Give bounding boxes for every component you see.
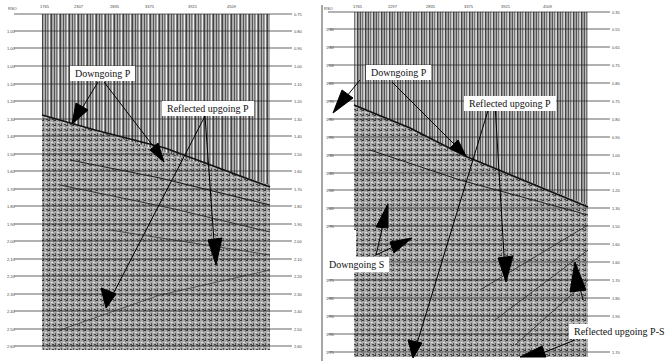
left-y-tick: 2.40 bbox=[7, 309, 15, 314]
right-panel-right-tick: 1.80 bbox=[612, 296, 620, 301]
right-y-tick: 1.20 bbox=[294, 99, 302, 104]
right-y-tick: 2.10 bbox=[294, 257, 302, 262]
left-y-tick: 1.70 bbox=[7, 187, 15, 192]
callout-reflected-upgoing-p: Reflected upgoing P bbox=[464, 96, 556, 111]
right-panel-top-tick: 4509 bbox=[543, 4, 552, 9]
callout-downgoing-p: Downgoing P bbox=[70, 66, 135, 81]
right-panel-right-tick: 0.55 bbox=[612, 27, 620, 32]
right-panel-top-tick: 1765 bbox=[353, 4, 362, 9]
right-panel-top-tick: 3375 bbox=[464, 4, 473, 9]
left-top-tick: 4509 bbox=[227, 4, 236, 9]
right-seismic-plot bbox=[320, 0, 659, 361]
left-y-tick: 1.00 bbox=[7, 64, 15, 69]
right-panel-y-tick: 1.70 bbox=[326, 224, 334, 229]
left-y-tick: 1.00 bbox=[7, 29, 15, 34]
right-panel-right-tick: 1.10 bbox=[612, 171, 620, 176]
right-y-tick: 0.80 bbox=[294, 29, 302, 34]
right-y-tick: 1.00 bbox=[294, 64, 302, 69]
right-panel-right-tick: 1.60 bbox=[612, 260, 620, 265]
right-y-tick: 1.50 bbox=[294, 152, 302, 157]
left-y-tick: 1.50 bbox=[7, 152, 15, 157]
callout-reflected-upgoing-p-s: Reflected upgoing P-S bbox=[569, 324, 669, 339]
right-panel-top-tick: 3921 bbox=[501, 4, 510, 9]
right-panel-y-tick: 1.50 bbox=[326, 188, 334, 193]
left-y-tick: 1.90 bbox=[7, 222, 15, 227]
left-top-tick: 3921 bbox=[188, 4, 197, 9]
callout-downgoing-p: Downgoing P bbox=[366, 65, 431, 80]
left-y-tick: 1.10 bbox=[7, 82, 15, 87]
right-panel-top-tick: 2835 bbox=[426, 4, 435, 9]
right-panel-right-tick: 1.30 bbox=[612, 206, 620, 211]
left-axis-title: RSO bbox=[8, 6, 17, 11]
right-y-tick: 2.40 bbox=[294, 309, 302, 314]
left-y-tick: 1.30 bbox=[7, 117, 15, 122]
right-panel-right-tick: 1.50 bbox=[612, 224, 620, 229]
right-y-tick: 2.50 bbox=[294, 327, 302, 332]
left-y-tick: 2.60 bbox=[7, 344, 15, 349]
left-y-tick: 1.20 bbox=[7, 99, 15, 104]
left-y-tick: 1.80 bbox=[7, 204, 15, 209]
right-panel-y-tick: 1.80 bbox=[326, 296, 334, 301]
right-panel-y-tick: 1.80 bbox=[326, 117, 334, 122]
right-y-tick: 2.20 bbox=[294, 274, 302, 279]
left-top-tick: 2307 bbox=[74, 4, 83, 9]
right-panel-y-tick: 1.30 bbox=[326, 153, 334, 158]
right-panel-right-tick: 1.20 bbox=[612, 188, 620, 193]
right-y-tick: 1.60 bbox=[294, 169, 302, 174]
right-panel-y-tick: 1.40 bbox=[326, 171, 334, 176]
right-y-tick: 1.10 bbox=[294, 82, 302, 87]
right-panel-y-tick: 1.90 bbox=[326, 135, 334, 140]
right-seismic-panel: RSO 1765 2297 2835 3375 3921 4509 1.30 1… bbox=[320, 0, 659, 361]
right-y-tick: 1.40 bbox=[294, 134, 302, 139]
right-panel-y-tick: 1.50 bbox=[326, 63, 334, 68]
right-panel-right-tick: 1.70 bbox=[612, 278, 620, 283]
right-y-tick: 2.30 bbox=[294, 292, 302, 297]
left-y-tick: 2.00 bbox=[7, 239, 15, 244]
left-seismic-panel: RSO 1765 2307 2835 3375 3921 4509 1.00 1… bbox=[0, 0, 320, 361]
right-panel-y-tick: 1.90 bbox=[326, 314, 334, 319]
left-top-tick: 2835 bbox=[110, 4, 119, 9]
right-panel-top-tick: 2297 bbox=[388, 4, 397, 9]
right-panel-y-tick: 1.75 bbox=[326, 350, 334, 355]
right-y-tick: 1.70 bbox=[294, 187, 302, 192]
right-panel-right-tick: 0.75 bbox=[612, 63, 620, 68]
right-panel-axis-title: RSO bbox=[324, 6, 333, 11]
right-panel-y-tick: 1.90 bbox=[326, 332, 334, 337]
left-y-tick: 2.20 bbox=[7, 274, 15, 279]
left-top-tick: 3375 bbox=[145, 4, 154, 9]
right-panel-right-tick: 1.60 bbox=[612, 242, 620, 247]
callout-downgoing-s: Downgoing S bbox=[324, 257, 389, 272]
right-y-tick: 0.75 bbox=[294, 12, 302, 17]
right-panel-right-tick: 1.70 bbox=[612, 350, 620, 355]
right-y-tick: 0.90 bbox=[294, 46, 302, 51]
right-panel-right-tick: 0.80 bbox=[612, 81, 620, 86]
right-y-tick: 2.60 bbox=[294, 344, 302, 349]
right-y-tick: 1.30 bbox=[294, 117, 302, 122]
right-panel-right-tick: 0.90 bbox=[612, 135, 620, 140]
right-panel-right-tick: 0.80 bbox=[612, 117, 620, 122]
right-panel-right-tick: 1.90 bbox=[612, 314, 620, 319]
right-y-tick: 2.00 bbox=[294, 239, 302, 244]
callout-reflected-upgoing-p: Reflected upgoing P bbox=[162, 101, 254, 116]
right-panel-right-tick: 0.65 bbox=[612, 45, 620, 50]
right-panel-y-tick: 1.60 bbox=[326, 206, 334, 211]
left-y-tick: 1.00 bbox=[7, 46, 15, 51]
left-seismic-plot bbox=[0, 0, 320, 361]
right-panel-y-tick: 1.70 bbox=[326, 99, 334, 104]
right-y-tick: 1.90 bbox=[294, 222, 302, 227]
right-panel-right-tick: 0.75 bbox=[612, 99, 620, 104]
right-y-tick: 1.80 bbox=[294, 204, 302, 209]
left-y-tick: 2.10 bbox=[7, 257, 15, 262]
left-y-tick: 2.30 bbox=[7, 292, 15, 297]
right-panel-y-tick: 1.60 bbox=[326, 81, 334, 86]
left-y-tick: 1.40 bbox=[7, 134, 15, 139]
right-panel-right-tick: 0.35 bbox=[612, 10, 620, 15]
left-top-tick: 1765 bbox=[40, 4, 49, 9]
left-y-tick: 2.50 bbox=[7, 327, 15, 332]
left-y-tick: 1.60 bbox=[7, 169, 15, 174]
right-panel-y-tick: 1.30 bbox=[326, 27, 334, 32]
right-panel-y-tick: 1.40 bbox=[326, 45, 334, 50]
right-panel-y-tick: 1.75 bbox=[326, 278, 334, 283]
right-panel-right-tick: 1.00 bbox=[612, 153, 620, 158]
